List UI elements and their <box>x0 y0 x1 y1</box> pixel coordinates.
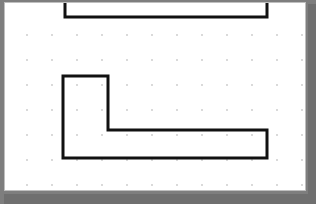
grid-dot <box>126 134 128 136</box>
grid-dot <box>301 34 303 36</box>
grid-dot <box>301 134 303 136</box>
dot-grid-layer <box>26 34 303 186</box>
grid-dot <box>276 109 278 111</box>
grid-dot <box>26 59 28 61</box>
grid-dot <box>101 109 103 111</box>
grid-dot <box>176 184 178 186</box>
shape-layer[interactable] <box>63 3 267 158</box>
grid-dot <box>201 184 203 186</box>
grid-dot <box>51 184 53 186</box>
grid-dot <box>301 109 303 111</box>
grid-dot <box>251 109 253 111</box>
grid-dot <box>276 59 278 61</box>
grid-dot <box>251 184 253 186</box>
grid-dot <box>51 59 53 61</box>
grid-dot <box>126 59 128 61</box>
grid-dot <box>226 134 228 136</box>
grid-dot <box>201 134 203 136</box>
grid-dot <box>26 134 28 136</box>
grid-dot <box>301 59 303 61</box>
grid-dot <box>76 59 78 61</box>
grid-dot <box>126 34 128 36</box>
drawing-application <box>0 0 316 204</box>
grid-dot <box>251 34 253 36</box>
grid-dot <box>76 84 78 86</box>
grid-dot <box>301 84 303 86</box>
canvas-svg[interactable] <box>5 3 306 191</box>
grid-dot <box>276 159 278 161</box>
grid-dot <box>101 59 103 61</box>
grid-dot <box>251 84 253 86</box>
grid-dot <box>76 109 78 111</box>
grid-dot <box>101 84 103 86</box>
grid-dot <box>26 159 28 161</box>
grid-dot <box>51 84 53 86</box>
grid-dot <box>26 84 28 86</box>
grid-dot <box>126 184 128 186</box>
grid-dot <box>201 59 203 61</box>
grid-dot <box>101 34 103 36</box>
grid-dot <box>276 184 278 186</box>
grid-dot <box>76 34 78 36</box>
grid-dot <box>176 84 178 86</box>
canvas-right-shadow <box>308 4 316 204</box>
grid-dot <box>201 34 203 36</box>
grid-dot <box>201 84 203 86</box>
open-rectangle-top[interactable] <box>65 3 267 17</box>
drawing-canvas[interactable] <box>4 2 306 191</box>
grid-dot <box>276 34 278 36</box>
grid-dot <box>251 134 253 136</box>
grid-dot <box>76 184 78 186</box>
grid-dot <box>51 109 53 111</box>
grid-dot <box>276 134 278 136</box>
grid-dot <box>301 159 303 161</box>
grid-dot <box>151 109 153 111</box>
grid-dot <box>176 34 178 36</box>
grid-dot <box>51 159 53 161</box>
grid-dot <box>176 59 178 61</box>
grid-dot <box>51 34 53 36</box>
l-shape-polygon[interactable] <box>63 76 267 158</box>
grid-dot <box>226 109 228 111</box>
grid-dot <box>26 34 28 36</box>
grid-dot <box>151 134 153 136</box>
grid-dot <box>226 184 228 186</box>
canvas-bottom-shadow <box>4 194 316 204</box>
grid-dot <box>26 184 28 186</box>
grid-dot <box>151 34 153 36</box>
grid-dot <box>151 59 153 61</box>
grid-dot <box>151 184 153 186</box>
grid-dot <box>226 34 228 36</box>
grid-dot <box>26 109 28 111</box>
grid-dot <box>151 84 153 86</box>
grid-dot <box>201 109 203 111</box>
grid-dot <box>126 109 128 111</box>
grid-dot <box>276 84 278 86</box>
grid-dot <box>76 134 78 136</box>
grid-dot <box>251 59 253 61</box>
grid-dot <box>301 184 303 186</box>
grid-dot <box>226 84 228 86</box>
grid-dot <box>176 109 178 111</box>
grid-dot <box>101 184 103 186</box>
grid-dot <box>101 134 103 136</box>
grid-dot <box>226 59 228 61</box>
grid-dot <box>126 84 128 86</box>
grid-dot <box>51 134 53 136</box>
grid-dot <box>176 134 178 136</box>
